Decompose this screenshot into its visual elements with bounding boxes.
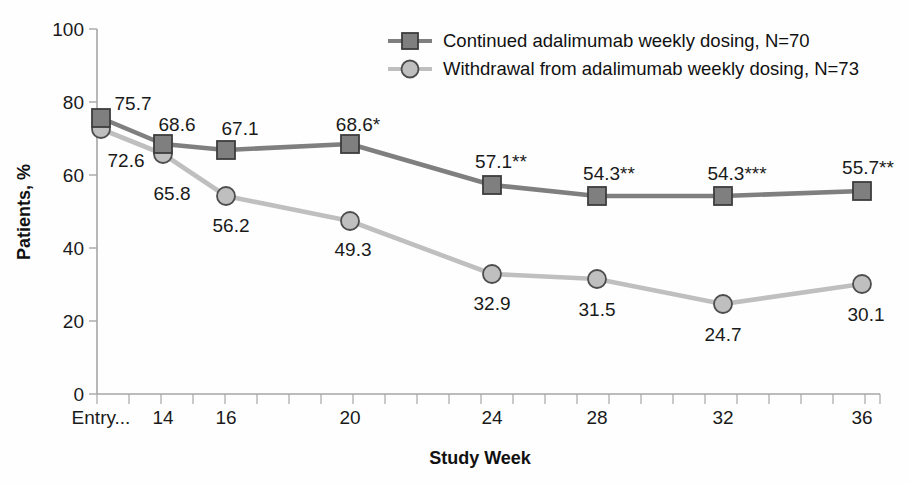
y-axis-title: Patients, % [14,164,34,260]
circle-marker-icon [402,61,419,78]
legend-item-continued[interactable]: Continued adalimumab weekly dosing, N=70 [388,30,810,51]
y-tick-label: 60 [63,165,84,186]
data-point-label: 30.1 [848,304,885,325]
legend-label: Continued adalimumab weekly dosing, N=70 [443,30,810,51]
data-point-marker [341,212,359,230]
y-axis-tick-labels: 100 80 60 40 20 0 [52,19,84,405]
data-point-label: 31.5 [579,299,616,320]
chart-container: 100 80 60 40 20 0 Patients, % [0,0,909,484]
x-axis-title: Study Week [429,448,532,468]
legend-item-withdrawal[interactable]: Withdrawal from adalimumab weekly dosing… [388,58,859,79]
data-point-marker [714,187,732,205]
data-point-marker [341,135,359,153]
y-tick-label: 80 [63,92,84,113]
data-point-label: 56.2 [213,215,250,236]
data-point-label: 67.1 [222,118,259,139]
line-chart: 100 80 60 40 20 0 Patients, % [0,0,909,484]
y-tick-label: 20 [63,311,84,332]
data-point-marker [92,109,110,127]
data-point-marker [853,275,871,293]
data-point-marker [217,187,235,205]
data-point-marker [714,295,732,313]
x-tick-label: 16 [215,407,236,428]
data-point-marker [483,265,501,283]
y-tick-label: 40 [63,238,84,259]
x-tick-label: 20 [339,407,360,428]
y-axis-ticks [89,29,97,394]
data-point-label: 72.6 [108,150,145,171]
data-point-label: 75.7 [115,93,152,114]
legend-label: Withdrawal from adalimumab weekly dosing… [443,58,859,79]
x-tick-label: Entry... [72,407,131,428]
y-tick-label: 0 [73,384,84,405]
data-point-label: 68.6* [336,114,381,135]
data-point-label: 57.1** [475,151,527,172]
x-tick-label: 24 [481,407,503,428]
x-axis-tick-labels: Entry... 14 16 20 24 28 32 36 [72,407,873,428]
y-tick-label: 100 [52,19,84,40]
x-axis-ticks [97,394,880,404]
data-point-marker [483,176,501,194]
x-tick-label: 28 [586,407,607,428]
data-point-label: 54.3** [583,163,635,184]
y-axis: 100 80 60 40 20 0 Patients, % [14,19,97,405]
data-point-marker [853,182,871,200]
data-point-label: 24.7 [705,324,742,345]
data-point-label: 65.8 [154,183,191,204]
chart-legend: Continued adalimumab weekly dosing, N=70… [388,30,859,79]
data-point-marker [154,135,172,153]
data-point-label: 32.9 [474,293,511,314]
data-point-marker [588,270,606,288]
data-point-marker [588,187,606,205]
data-point-marker [217,141,235,159]
x-axis: Entry... 14 16 20 24 28 32 36 Study Week [72,394,880,468]
data-point-label: 54.3*** [707,163,767,184]
x-tick-label: 36 [851,407,872,428]
data-point-label: 55.7** [842,157,894,178]
x-tick-label: 14 [152,407,174,428]
series-a-point-labels: 75.7 68.6 67.1 68.6* 57.1** 54.3** 54.3*… [115,93,895,184]
data-point-label: 49.3 [335,239,372,260]
x-tick-label: 32 [712,407,733,428]
data-point-label: 68.6 [159,114,196,135]
square-marker-icon [402,33,418,49]
